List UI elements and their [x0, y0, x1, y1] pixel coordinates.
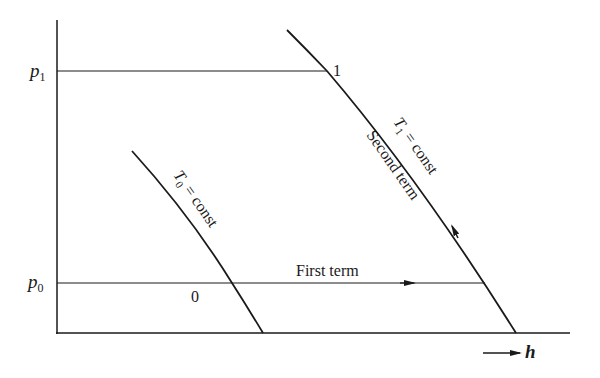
- first-term-label: First term: [296, 262, 359, 279]
- state-0-label: 0: [191, 288, 199, 305]
- p1-label: p1: [28, 60, 46, 84]
- t0-const-label: T0 = const: [168, 167, 222, 232]
- p0-label: p0: [26, 271, 44, 295]
- t0-isotherm: [132, 151, 263, 333]
- h-axis-label: h: [525, 341, 536, 362]
- state-1-label: 1: [333, 62, 341, 79]
- p-h-diagram: p1 p0 1 0 First term T1 = const Second t…: [0, 0, 600, 378]
